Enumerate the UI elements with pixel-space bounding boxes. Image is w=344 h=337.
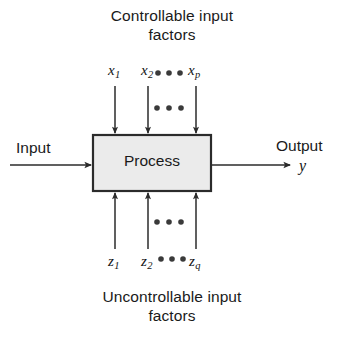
label-x2-base: x	[141, 62, 148, 78]
label-z1-sub: 1	[114, 260, 120, 271]
ellipsis-lower-mid	[154, 219, 184, 225]
output-variable-label: y	[299, 157, 306, 175]
label-xp: xp	[188, 62, 200, 80]
label-z1: z1	[108, 253, 119, 271]
label-z2-sub: 2	[147, 260, 153, 271]
label-z2: z2	[141, 253, 152, 271]
caption-uncontrollable-line1: Uncontrollable input	[42, 287, 302, 306]
caption-controllable-line2: factors	[42, 25, 302, 44]
process-diagram: Controllable input factors x1 x2 xp Proc…	[0, 0, 344, 337]
caption-uncontrollable-line2: factors	[42, 306, 302, 325]
label-x2-sub: 2	[148, 69, 154, 80]
label-x1: x1	[108, 62, 120, 80]
label-x2: x2	[141, 62, 153, 80]
ellipsis-top-labels	[155, 70, 183, 76]
caption-controllable-line1: Controllable input	[42, 6, 302, 25]
output-label: Output	[276, 137, 323, 155]
ellipsis-upper-mid	[154, 105, 184, 111]
caption-controllable: Controllable input factors	[42, 6, 302, 44]
label-x1-sub: 1	[115, 69, 121, 80]
input-label: Input	[16, 139, 50, 157]
label-zq-base: z	[189, 253, 195, 269]
label-xp-base: x	[188, 62, 195, 78]
label-z1-base: z	[108, 253, 114, 269]
label-zq-sub: q	[195, 260, 201, 271]
caption-uncontrollable: Uncontrollable input factors	[42, 287, 302, 325]
label-xp-sub: p	[195, 69, 201, 80]
label-z2-base: z	[141, 253, 147, 269]
label-x1-base: x	[108, 62, 115, 78]
ellipsis-bottom-labels	[158, 256, 186, 262]
label-zq: zq	[189, 253, 200, 271]
process-box-label: Process	[92, 152, 212, 170]
